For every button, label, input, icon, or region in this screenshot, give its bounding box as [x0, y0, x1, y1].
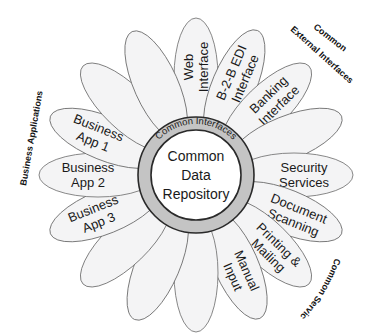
core-label-line-2: Data	[181, 167, 211, 183]
petal-label-line-1: Web	[181, 54, 196, 81]
petal-label-line-2: Interface	[196, 42, 211, 93]
core-label-line-3: Repository	[163, 186, 230, 202]
petal-label-line-1: Security	[281, 160, 328, 175]
common-data-repository-flower-diagram: WebInterfaceB-2-B EDIInterfaceBankingInt…	[0, 0, 374, 335]
common-data-repository-core: Common Data Repository	[151, 130, 241, 220]
petal-label-line-2: App 2	[71, 175, 105, 190]
core-label-line-1: Common	[168, 148, 225, 164]
